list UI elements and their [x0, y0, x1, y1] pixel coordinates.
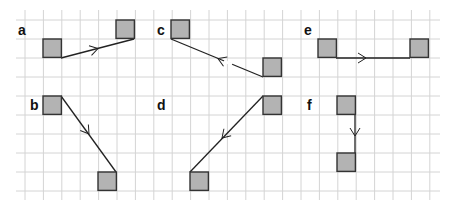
- grid-background: [16, 10, 440, 200]
- panel-c: c: [157, 20, 281, 77]
- end-square: [337, 153, 355, 171]
- end-square: [116, 20, 134, 38]
- start-square: [43, 39, 61, 57]
- start-square: [318, 39, 336, 57]
- start-square: [263, 96, 281, 114]
- panel-label: c: [157, 22, 165, 38]
- end-square: [190, 172, 208, 190]
- panel-label: d: [157, 97, 166, 113]
- panels: acebdf: [18, 20, 428, 190]
- panel-label: e: [304, 22, 312, 38]
- end-square: [410, 39, 428, 57]
- panel-label: f: [307, 97, 312, 113]
- vector-diagram: acebdf: [0, 0, 452, 209]
- line-gap: [224, 61, 232, 65]
- panel-label: a: [18, 22, 26, 38]
- end-square: [263, 58, 281, 76]
- start-square: [171, 20, 189, 38]
- panel-d: d: [157, 96, 281, 190]
- end-square: [98, 172, 116, 190]
- panel-label: b: [30, 97, 39, 113]
- start-square: [337, 96, 355, 114]
- start-square: [43, 96, 61, 114]
- panel-e: e: [304, 22, 428, 63]
